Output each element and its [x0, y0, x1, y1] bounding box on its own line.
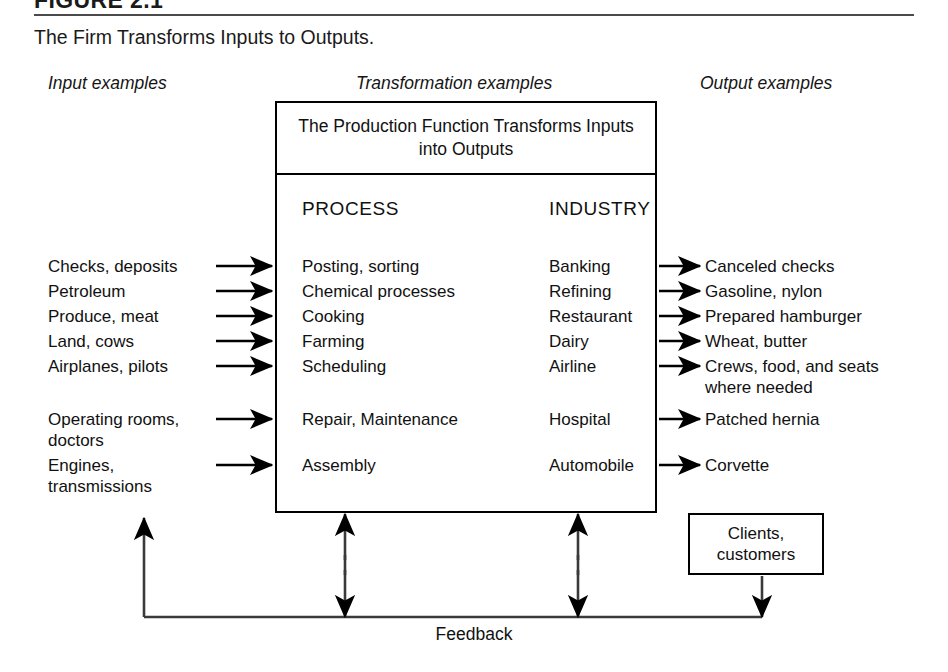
process-item: Cooking [302, 306, 364, 327]
industry-item: Dairy [549, 331, 589, 352]
column-header-input: Input examples [48, 73, 167, 94]
clients-customers-box: Clients, customers [688, 513, 824, 575]
process-item: Chemical processes [302, 281, 455, 302]
industry-column-title: INDUSTRY [549, 198, 651, 220]
input-item: Produce, meat [48, 306, 159, 327]
clients-customers-text: Clients, customers [717, 523, 795, 565]
industry-item: Automobile [549, 455, 634, 476]
industry-item: Refining [549, 281, 611, 302]
production-function-box-header: The Production Function Transforms Input… [277, 103, 655, 175]
input-item: Engines, transmissions [48, 455, 152, 497]
column-header-output: Output examples [700, 73, 832, 94]
output-item: Crews, food, and seats where needed [705, 356, 879, 398]
figure-caption: The Firm Transforms Inputs to Outputs. [34, 26, 374, 49]
process-item: Posting, sorting [302, 256, 419, 277]
process-item: Farming [302, 331, 364, 352]
industry-item: Hospital [549, 409, 610, 430]
industry-item: Airline [549, 356, 596, 377]
output-item: Corvette [705, 455, 769, 476]
figure-container: FIGURE 2.1 The Firm Transforms Inputs to… [0, 0, 948, 672]
process-column-title: PROCESS [302, 198, 399, 220]
output-item: Patched hernia [705, 409, 819, 430]
industry-item: Banking [549, 256, 610, 277]
industry-item: Restaurant [549, 306, 632, 327]
output-item: Canceled checks [705, 256, 834, 277]
feedback-label: Feedback [0, 624, 948, 645]
output-item: Wheat, butter [705, 331, 807, 352]
input-item: Land, cows [48, 331, 134, 352]
process-item: Scheduling [302, 356, 386, 377]
process-item: Assembly [302, 455, 376, 476]
column-header-transformation: Transformation examples [356, 73, 552, 94]
figure-horizontal-rule [34, 14, 914, 16]
input-item: Petroleum [48, 281, 125, 302]
output-item: Prepared hamburger [705, 306, 862, 327]
input-item: Airplanes, pilots [48, 356, 168, 377]
figure-number: FIGURE 2.1 [34, 0, 163, 14]
output-item: Gasoline, nylon [705, 281, 822, 302]
input-item: Operating rooms, doctors [48, 409, 179, 451]
input-item: Checks, deposits [48, 256, 177, 277]
production-function-box-header-text: The Production Function Transforms Input… [291, 115, 641, 161]
process-item: Repair, Maintenance [302, 409, 458, 430]
